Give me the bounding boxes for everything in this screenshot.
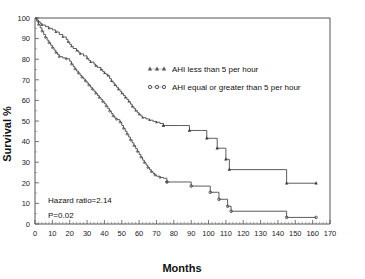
legend-label-ahi-ge-5: AHI equal or greater than 5 per hour — [172, 83, 301, 92]
x-tick-label: 40 — [100, 229, 108, 238]
legend-entry-ahi-less-than-5: AHI less than 5 per hour — [148, 65, 259, 74]
y-tick-label: 60 — [22, 96, 30, 105]
x-axis: 0102030405060708090100110120130140150160… — [33, 220, 336, 238]
y-tick-label: 70 — [22, 76, 30, 85]
x-tick-label: 50 — [118, 229, 126, 238]
y-tick-label: 30 — [22, 158, 30, 167]
y-axis-title: Survival % — [1, 106, 13, 162]
chart-canvas: 0102030405060708090100 01020304050607080… — [0, 0, 365, 279]
x-tick-label: 170 — [324, 229, 337, 238]
x-tick-label: 0 — [33, 229, 37, 238]
x-tick-label: 160 — [306, 229, 319, 238]
x-tick-label: 150 — [289, 229, 302, 238]
y-tick-label: 10 — [22, 199, 30, 208]
statistics-annotation: Hazard ratio=2.14 P=0.02 — [48, 196, 112, 220]
survival-curve-ahi-less-than-5 — [35, 18, 316, 183]
x-tick-label: 20 — [66, 229, 74, 238]
y-tick-label: 100 — [17, 14, 30, 23]
x-tick-label: 140 — [272, 229, 285, 238]
survival-curve-ahi-ge-5 — [35, 18, 316, 217]
y-axis: 0102030405060708090100 — [17, 14, 39, 229]
survival-curves — [35, 18, 316, 217]
x-tick-label: 60 — [135, 229, 143, 238]
x-tick-label: 110 — [220, 229, 232, 238]
survival-chart-figure: 0102030405060708090100 01020304050607080… — [0, 0, 365, 279]
y-tick-label: 0 — [26, 220, 30, 229]
x-tick-label: 130 — [254, 229, 267, 238]
hazard-ratio-text: Hazard ratio=2.14 — [48, 196, 112, 205]
x-axis-title: Months — [162, 262, 201, 274]
plot-frame — [35, 18, 330, 224]
y-tick-label: 50 — [22, 117, 30, 126]
censor-tick — [315, 216, 318, 219]
x-tick-label: 100 — [202, 229, 215, 238]
y-tick-label: 90 — [22, 34, 30, 43]
censoring-marks — [162, 124, 318, 219]
x-tick-label: 70 — [152, 229, 160, 238]
p-value-text: P=0.02 — [48, 211, 74, 220]
x-tick-label: 120 — [237, 229, 250, 238]
x-tick-label: 80 — [170, 229, 178, 238]
y-tick-label: 80 — [22, 55, 30, 64]
x-tick-label: 10 — [48, 229, 56, 238]
circle-marker-icon — [148, 85, 166, 88]
legend-entry-ahi-ge-5: AHI equal or greater than 5 per hour — [148, 83, 301, 92]
legend-label-ahi-less-than-5: AHI less than 5 per hour — [172, 65, 259, 74]
y-tick-label: 20 — [22, 179, 30, 188]
chart-legend: AHI less than 5 per hour AHI equal or gr… — [148, 65, 301, 92]
triangle-marker-icon — [148, 67, 166, 71]
x-tick-label: 30 — [83, 229, 91, 238]
x-tick-label: 90 — [187, 229, 195, 238]
y-tick-label: 40 — [22, 137, 30, 146]
